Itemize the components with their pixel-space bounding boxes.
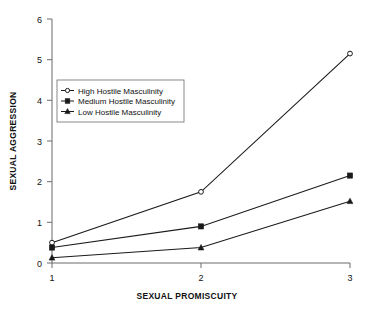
legend-marker-open-circle-icon bbox=[65, 88, 69, 92]
y-tick-label-4: 4 bbox=[37, 96, 42, 106]
y-tick-label-6: 6 bbox=[37, 15, 42, 25]
data-point-open-circle-icon bbox=[199, 189, 204, 194]
x-tick-label-2: 2 bbox=[198, 273, 203, 283]
data-point-filled-square-icon bbox=[198, 224, 203, 229]
y-tick-label-0: 0 bbox=[37, 259, 42, 269]
y-tick-label-3: 3 bbox=[37, 137, 42, 147]
x-tick-label-1: 1 bbox=[49, 273, 54, 283]
data-point-open-circle-icon bbox=[50, 240, 55, 245]
legend-label-low: Low Hostile Masculinity bbox=[78, 108, 161, 117]
data-point-open-circle-icon bbox=[348, 51, 353, 56]
sexual-aggression-line-chart: 0 1 2 3 4 5 6 1 2 3 SEXUAL PROMISCUITY S… bbox=[0, 0, 374, 314]
y-tick-label-1: 1 bbox=[37, 218, 42, 228]
chart-legend: High Hostile Masculinity Medium Hostile … bbox=[57, 80, 184, 122]
chart-background bbox=[0, 0, 374, 314]
x-axis-title: SEXUAL PROMISCUITY bbox=[136, 291, 237, 301]
x-tick-label-3: 3 bbox=[347, 273, 352, 283]
data-point-filled-square-icon bbox=[49, 245, 54, 250]
data-point-filled-square-icon bbox=[347, 173, 352, 178]
y-tick-label-2: 2 bbox=[37, 177, 42, 187]
y-axis-title: SEXUAL AGGRESSION bbox=[8, 91, 18, 190]
legend-label-high: High Hostile Masculinity bbox=[78, 87, 163, 96]
legend-label-medium: Medium Hostile Masculinity bbox=[78, 97, 175, 106]
legend-marker-filled-square-icon bbox=[65, 99, 70, 104]
y-tick-label-5: 5 bbox=[37, 55, 42, 65]
